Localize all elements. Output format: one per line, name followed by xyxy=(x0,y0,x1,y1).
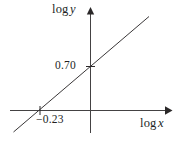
y-axis-label-variable: y xyxy=(69,2,76,16)
y-axis-label-prefix: log xyxy=(52,2,69,16)
x-intercept-tick-label: −0.23 xyxy=(36,114,64,126)
x-axis-arrowhead xyxy=(165,106,173,115)
y-intercept-tick-label: 0.70 xyxy=(55,60,76,72)
x-axis-label-variable: x xyxy=(157,116,164,130)
x-axis-label-prefix: log xyxy=(140,116,157,130)
log-log-line-graph: logy logx 0.70 −0.23 xyxy=(0,0,179,147)
y-axis-label: logy xyxy=(52,3,76,16)
y-axis-arrowhead xyxy=(87,7,94,15)
data-line xyxy=(14,17,150,133)
x-axis-label: logx xyxy=(140,117,164,130)
